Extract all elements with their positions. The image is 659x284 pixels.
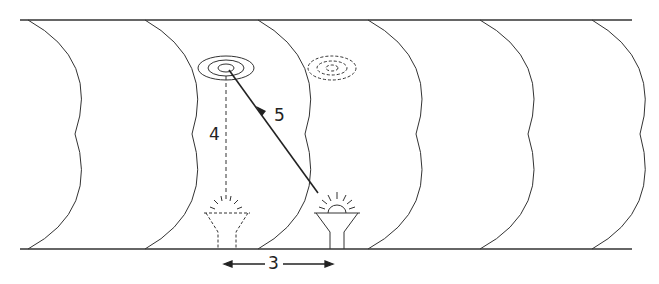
ring-6 [592,20,645,249]
ring-4 [368,20,422,249]
ghost-lamp-icon [204,196,250,249]
tunnel-walls [20,20,632,249]
diagonal-ray-arrow [229,70,318,193]
lamp-icon [314,192,360,249]
ring-1 [28,20,81,249]
ring-5 [480,20,534,249]
ghost-target-icon [308,56,356,80]
ring-3 [258,20,311,249]
label-horizontal-distance: 3 [268,255,279,272]
tunnel-rings [28,20,645,249]
label-diagonal-distance: 5 [274,107,285,124]
tunnel-diagram [0,0,659,284]
ring-2 [145,20,198,249]
label-vertical-distance: 4 [209,126,220,143]
